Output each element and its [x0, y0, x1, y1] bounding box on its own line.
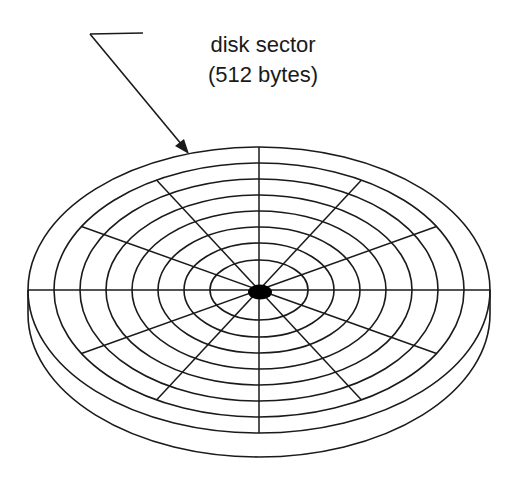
sector-boundary-6: [82, 227, 260, 291]
sector-boundary-11: [259, 290, 362, 400]
disk-sector-diagram: disk sector (512 bytes): [0, 0, 521, 486]
sector-label-line2: (512 bytes): [208, 62, 318, 87]
arrowhead-icon: [175, 139, 189, 154]
leader-line-diagonal: [90, 34, 182, 145]
sector-boundary-2: [259, 227, 437, 291]
sector-boundary-3: [259, 180, 362, 290]
sector-label: disk sector (512 bytes): [208, 32, 318, 87]
leader-arrow: [90, 33, 189, 154]
sector-boundary-9: [157, 290, 260, 400]
sector-label-line1: disk sector: [210, 32, 315, 57]
sector-boundary-5: [157, 180, 260, 290]
sector-boundary-8: [82, 290, 260, 354]
spindle-hub: [248, 285, 272, 300]
sector-boundary-12: [259, 290, 437, 354]
leader-line-horizontal: [90, 33, 143, 34]
